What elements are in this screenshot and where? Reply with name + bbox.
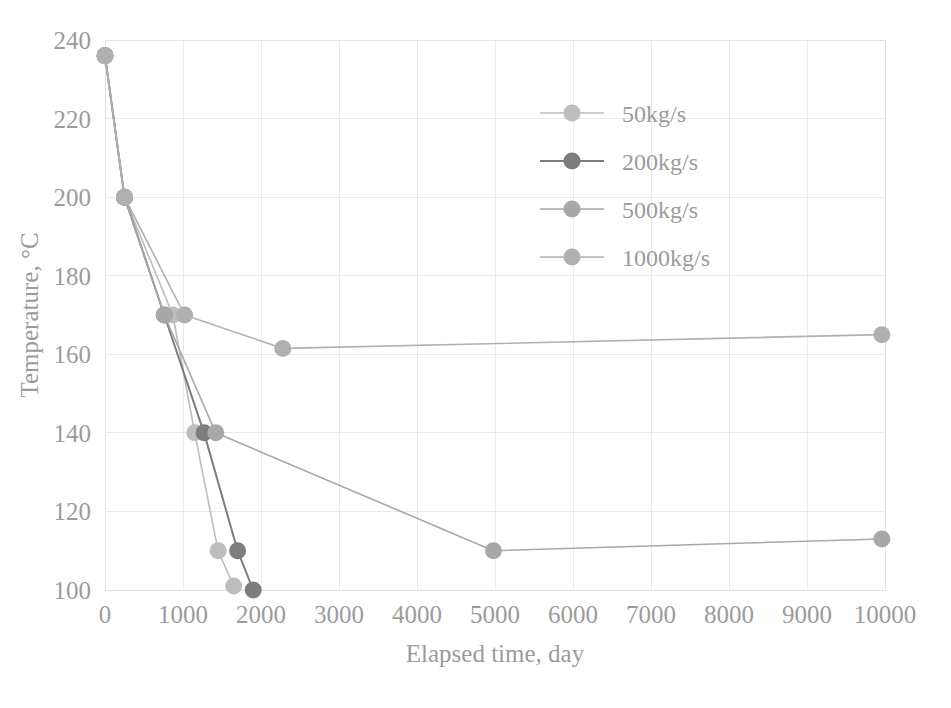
y-tick-label: 160: [54, 341, 92, 368]
data-point-marker: [97, 47, 114, 64]
data-point-marker: [274, 340, 291, 357]
x-tick-label: 7000: [626, 601, 676, 628]
x-tick-label: 9000: [782, 601, 832, 628]
x-tick-label: 1000: [158, 601, 208, 628]
y-axis-title: Temperature, °C: [16, 232, 43, 397]
temperature-vs-elapsed-time-line-chart: 0100020003000400050006000700080009000100…: [0, 0, 951, 708]
legend-item-label: 500kg/s: [622, 197, 698, 223]
data-point-marker: [225, 578, 242, 595]
y-tick-label: 180: [54, 263, 92, 290]
legend-item-label: 200kg/s: [622, 149, 698, 175]
data-point-marker: [873, 326, 890, 343]
data-point-marker: [873, 530, 890, 547]
x-tick-label: 6000: [548, 601, 598, 628]
legend-marker-swatch: [564, 105, 581, 122]
legend-marker-swatch: [564, 201, 581, 218]
y-tick-label: 240: [54, 27, 92, 54]
legend-marker-swatch: [564, 249, 581, 266]
x-tick-label: 3000: [314, 601, 364, 628]
x-tick-label: 4000: [392, 601, 442, 628]
data-point-marker: [210, 542, 227, 559]
data-point-marker: [485, 542, 502, 559]
data-point-marker: [156, 307, 173, 324]
y-tick-label: 100: [54, 577, 92, 604]
data-point-marker: [245, 582, 262, 599]
data-point-marker: [229, 542, 246, 559]
x-tick-label: 8000: [704, 601, 754, 628]
y-tick-label: 140: [54, 420, 92, 447]
y-tick-label: 120: [54, 498, 92, 525]
x-tick-label: 2000: [236, 601, 286, 628]
legend-marker-swatch: [564, 153, 581, 170]
x-axis-title: Elapsed time, day: [406, 640, 585, 667]
data-point-marker: [176, 307, 193, 324]
data-point-marker: [116, 189, 133, 206]
legend-item-label: 50kg/s: [622, 101, 686, 127]
y-tick-label: 220: [54, 106, 92, 133]
x-tick-label: 10000: [854, 601, 917, 628]
legend-item-label: 1000kg/s: [622, 245, 710, 271]
x-tick-label: 0: [99, 601, 112, 628]
y-tick-label: 200: [54, 184, 92, 211]
data-point-marker: [207, 424, 224, 441]
chart-container: 0100020003000400050006000700080009000100…: [0, 0, 951, 708]
x-tick-label: 5000: [470, 601, 520, 628]
